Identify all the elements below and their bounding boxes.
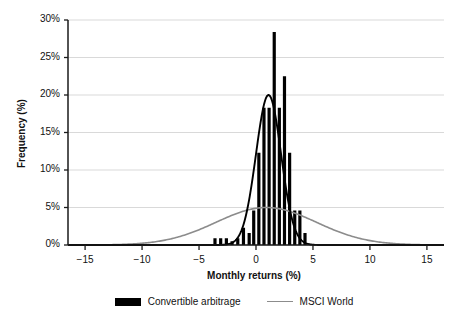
y-tick-label: 30% — [24, 13, 60, 24]
gridlines — [68, 20, 444, 245]
legend-label: Convertible arbitrage — [148, 296, 241, 307]
chart-figure: Frequency (%) Monthly returns (%) 0%5%10… — [0, 0, 468, 321]
y-tick-label: 20% — [24, 88, 60, 99]
x-tick-label: 0 — [236, 254, 276, 265]
x-tick-label: 15 — [407, 254, 447, 265]
x-tick-label: −15 — [65, 254, 105, 265]
x-axis-title: Monthly returns (%) — [20, 270, 468, 281]
x-tick-label: −5 — [179, 254, 219, 265]
x-tick-label: −10 — [122, 254, 162, 265]
legend-item-convertible-arbitrage[interactable]: Convertible arbitrage — [115, 296, 241, 307]
x-tick-label: 5 — [293, 254, 333, 265]
chart-legend: Convertible arbitrage MSCI World — [0, 296, 468, 307]
y-tick-label: 0% — [24, 238, 60, 249]
legend-item-msci-world[interactable]: MSCI World — [267, 296, 354, 307]
y-tick-label: 10% — [24, 163, 60, 174]
msci-world-curve — [68, 208, 444, 245]
x-tick-label: 10 — [350, 254, 390, 265]
legend-label: MSCI World — [300, 296, 354, 307]
bar-swatch-icon — [115, 298, 141, 306]
y-tick-label: 15% — [24, 126, 60, 137]
y-tick-label: 5% — [24, 201, 60, 212]
y-tick-label: 25% — [24, 51, 60, 62]
line-swatch-icon — [267, 301, 293, 302]
